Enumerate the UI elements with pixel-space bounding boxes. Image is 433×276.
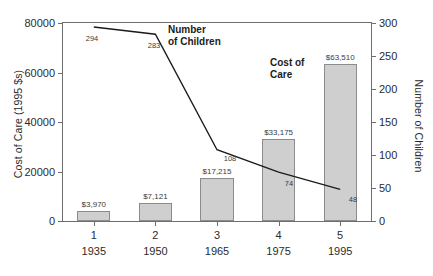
annotation-number-of-children-line1: Number	[168, 24, 206, 35]
annotation-cost-of-care-line2: Care	[270, 69, 292, 80]
x-axis-ticklabel-index: 3	[205, 229, 229, 241]
x-axis-ticklabel-year: 1935	[82, 245, 106, 257]
y-axis-right-title: Number of Children	[413, 46, 425, 206]
line-path	[94, 27, 340, 189]
x-axis-ticklabel-year: 1965	[205, 245, 229, 257]
bar[interactable]	[200, 178, 233, 221]
y-axis-right-ticklabel: 250	[379, 50, 397, 62]
bar-value-label: $7,121	[143, 192, 167, 201]
y-axis-left-tickmark	[58, 73, 63, 74]
y-axis-left-ticklabel: 0	[49, 215, 55, 227]
annotation-number-of-children-line2: of Children	[168, 36, 221, 47]
x-axis-ticklabel: 41975	[266, 229, 290, 257]
bar[interactable]	[139, 203, 172, 221]
annotation-cost-of-care-line1: Cost of	[270, 57, 304, 68]
bar-value-label: $17,215	[203, 167, 232, 176]
y-axis-left-ticklabel: 60000	[24, 67, 55, 79]
y-axis-right-ticklabel: 100	[379, 149, 397, 161]
bar-value-label: $63,510	[326, 53, 355, 62]
y-axis-left-title: Cost of Care (1995 $s)	[12, 44, 24, 204]
y-axis-left-tickmark	[58, 23, 63, 24]
x-axis-ticklabel: 51995	[328, 229, 352, 257]
y-axis-right-tickmark	[371, 188, 376, 189]
chart-figure: Cost of Care (1995 $s) Number of Childre…	[0, 0, 433, 276]
line-point-label: 283	[148, 41, 161, 50]
bar[interactable]	[77, 211, 110, 221]
line-point-label: 48	[349, 195, 357, 204]
line-point-label: 294	[86, 34, 99, 43]
line-point-label: 108	[224, 154, 237, 163]
x-axis-tickmark	[155, 221, 156, 226]
y-axis-right-tickmark	[371, 221, 376, 222]
y-axis-right-ticklabel: 0	[379, 215, 385, 227]
y-axis-left-ticklabel: 80000	[24, 17, 55, 29]
y-axis-right-tickmark	[371, 56, 376, 57]
x-axis-ticklabel: 11935	[82, 229, 106, 257]
bar-value-label: $3,970	[82, 200, 106, 209]
y-axis-right-ticklabel: 200	[379, 83, 397, 95]
x-axis-ticklabel: 21950	[143, 229, 167, 257]
y-axis-left-tickmark	[58, 172, 63, 173]
y-axis-left-ticklabel: 40000	[24, 116, 55, 128]
x-axis-ticklabel-year: 1975	[266, 245, 290, 257]
x-axis-tickmark	[217, 221, 218, 226]
y-axis-left-tickmark	[58, 221, 63, 222]
x-axis-ticklabel-index: 1	[82, 229, 106, 241]
annotation-cost-of-care: Cost of Care	[270, 57, 304, 81]
x-axis-ticklabel-year: 1950	[143, 245, 167, 257]
x-axis-tickmark	[94, 221, 95, 226]
plot-area: 020000400006000080000 050100150200250300…	[62, 22, 372, 222]
x-axis-ticklabel-index: 4	[266, 229, 290, 241]
y-axis-left-ticklabel: 20000	[24, 166, 55, 178]
y-axis-right-ticklabel: 150	[379, 116, 397, 128]
annotation-number-of-children: Number of Children	[168, 24, 221, 48]
y-axis-right-tickmark	[371, 155, 376, 156]
y-axis-right-tickmark	[371, 23, 376, 24]
bar-value-label: $33,175	[264, 128, 293, 137]
y-axis-right-tickmark	[371, 89, 376, 90]
y-axis-right-tickmark	[371, 122, 376, 123]
x-axis-ticklabel-year: 1995	[328, 245, 352, 257]
x-axis-tickmark	[340, 221, 341, 226]
x-axis-ticklabel-index: 5	[328, 229, 352, 241]
x-axis-ticklabel: 31965	[205, 229, 229, 257]
y-axis-right-ticklabel: 300	[379, 17, 397, 29]
y-axis-left-tickmark	[58, 122, 63, 123]
y-axis-right-ticklabel: 50	[379, 182, 391, 194]
line-point-label: 74	[285, 178, 293, 187]
x-axis-ticklabel-index: 2	[143, 229, 167, 241]
x-axis-tickmark	[279, 221, 280, 226]
